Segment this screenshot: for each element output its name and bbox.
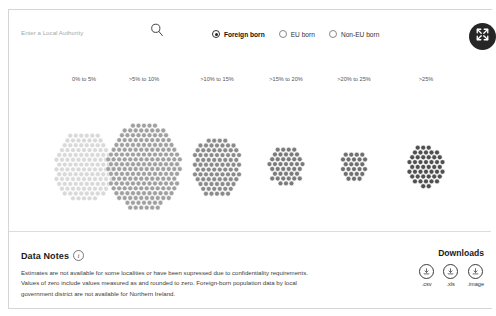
data-notes-body: Estimates are not available for some loc… [21,268,311,299]
radio-option-label: Non-EU born [341,31,379,38]
download-button-image[interactable]: .image [467,264,484,287]
toolbar: Foreign bornEU bornNon-EU born [9,10,492,54]
search-field-wrapper[interactable] [21,21,161,37]
search-input[interactable] [21,25,161,41]
blob-chart-widget: Foreign bornEU bornNon-EU born 0% to 5%>… [0,0,496,316]
info-icon[interactable]: i [73,250,84,261]
dot-cluster-chart [9,96,492,222]
downloads-title: Downloads [388,248,484,258]
bin-legend: 0% to 5%>5% to 10%>10% to 15%>15% to 20%… [9,76,492,90]
download-label: .image [467,281,484,287]
radio-option-2[interactable]: Non-EU born [329,30,379,38]
download-button-list: .csv.xls.image [388,264,484,287]
data-notes-header: Data Notes i [21,250,311,261]
dot-cluster-3[interactable] [266,146,306,187]
search-icon[interactable] [149,22,165,38]
download-icon [443,264,458,279]
data-notes-title: Data Notes [21,251,69,261]
radio-option-label: EU born [291,31,315,38]
radio-option-1[interactable]: EU born [279,30,315,38]
fullscreen-button[interactable] [469,23,496,50]
download-button-xls[interactable]: .xls [443,264,458,287]
legend-label-2: >10% to 15% [200,76,233,82]
radio-indicator-icon [279,30,287,38]
legend-label-3: >15% to 20% [269,76,302,82]
download-button-csv[interactable]: .csv [419,264,434,287]
legend-label-4: >20% to 25% [337,76,370,82]
dot-cluster-5[interactable] [406,144,446,190]
download-icon [468,264,483,279]
dot-cluster-1[interactable] [105,122,184,211]
download-icon [419,264,434,279]
dot-cluster-2[interactable] [191,137,242,197]
radio-indicator-icon [329,30,337,38]
download-label: .xls [447,281,455,287]
legend-label-5: >25% [419,76,433,82]
legend-label-1: >5% to 10% [129,76,159,82]
footer-divider [9,231,491,232]
legend-label-0: 0% to 5% [72,76,96,82]
download-label: .csv [422,281,432,287]
dot-cluster-4[interactable] [339,151,368,182]
radio-option-label: Foreign born [224,31,265,38]
downloads-section: Downloads .csv.xls.image [388,248,484,287]
fullscreen-expand-icon [475,27,490,46]
born-filter-radio-group[interactable]: Foreign bornEU bornNon-EU born [212,30,379,38]
data-notes-section: Data Notes i Estimates are not available… [21,250,311,299]
radio-indicator-icon [212,30,220,38]
radio-option-0[interactable]: Foreign born [212,30,265,38]
